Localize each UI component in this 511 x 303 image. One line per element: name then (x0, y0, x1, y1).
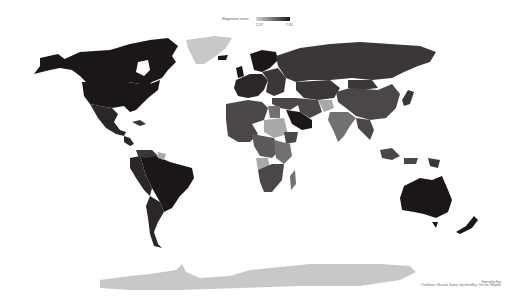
region-central-asia[interactable] (296, 80, 340, 100)
region-japan[interactable] (402, 90, 414, 106)
legend-max-value: 7.81 (286, 23, 293, 27)
region-southeast-asia[interactable] (356, 118, 374, 140)
region-mexico[interactable] (90, 104, 126, 136)
legend-min-value: 2.57 (256, 23, 263, 27)
region-australia[interactable] (400, 176, 452, 218)
region-egypt[interactable] (268, 106, 280, 118)
region-caribbean[interactable] (132, 120, 146, 126)
region-nordics[interactable] (250, 50, 278, 72)
region-ethiopia[interactable] (284, 132, 298, 144)
region-east-africa[interactable] (274, 140, 292, 164)
region-madagascar[interactable] (290, 170, 296, 190)
map-attribution: Powered by Bing © GeoNames, Microsoft, N… (420, 281, 501, 288)
region-papua-new-guinea[interactable] (428, 158, 440, 168)
legend: Happiness score 2.57 7.81 (222, 16, 312, 34)
attribution-copyright[interactable]: © GeoNames, Microsoft, Navteq, OpenStree… (420, 284, 501, 287)
region-sudan[interactable] (264, 118, 288, 138)
region-iceland[interactable] (218, 55, 228, 60)
legend-gradient-bar (256, 17, 290, 21)
region-alaska[interactable] (34, 54, 66, 74)
region-india[interactable] (328, 112, 356, 142)
region-indonesia[interactable] (380, 148, 418, 164)
region-tasmania[interactable] (432, 222, 438, 228)
region-new-zealand[interactable] (456, 216, 478, 234)
legend-title: Happiness score (222, 17, 249, 21)
choropleth-map[interactable] (0, 0, 511, 303)
region-antarctica[interactable] (100, 264, 416, 290)
region-central-america[interactable] (124, 136, 134, 146)
region-united-kingdom[interactable] (236, 66, 244, 78)
world-map-canvas[interactable] (0, 0, 511, 303)
region-russia[interactable] (276, 42, 436, 82)
region-canada[interactable] (58, 38, 178, 86)
